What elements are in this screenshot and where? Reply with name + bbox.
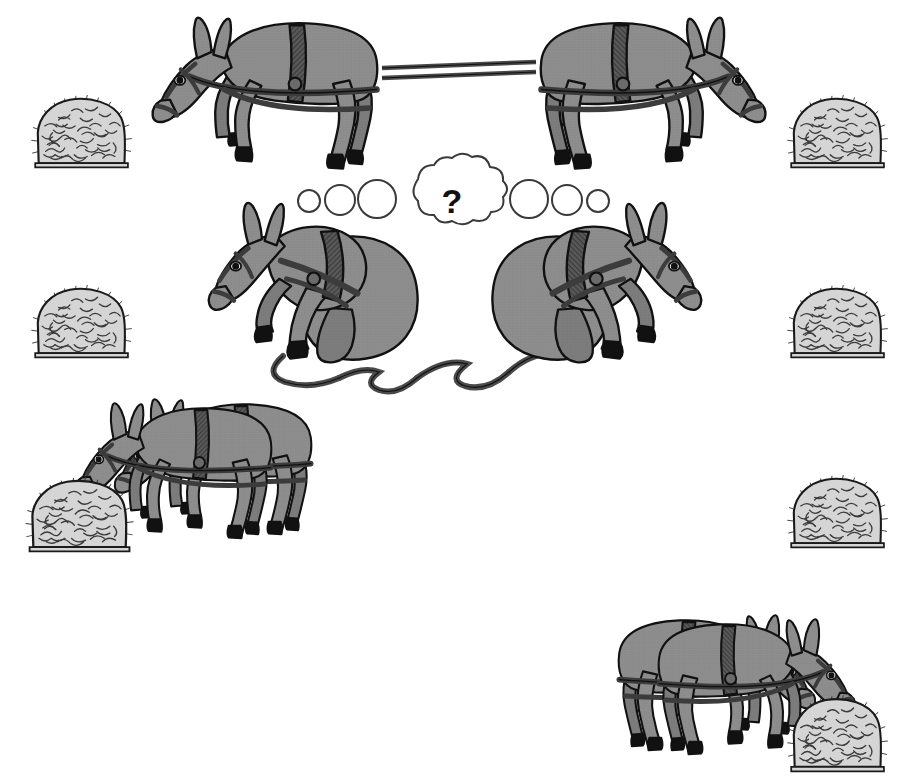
thought-trail-circle-right-1 (510, 180, 548, 218)
thought-trail-circle-left-2 (325, 185, 355, 215)
illustration-canvas: ? (0, 0, 910, 782)
thought-bubble-question-mark: ? (442, 182, 463, 220)
thought-trail-circle-left-3 (358, 180, 396, 218)
thought-trail-circle-right-2 (552, 185, 582, 215)
thought-trail-circle-left-1 (298, 190, 320, 212)
thought-trail-circle-right-3 (587, 190, 609, 212)
donkeys-haystacks-illustration: ? (0, 0, 910, 782)
